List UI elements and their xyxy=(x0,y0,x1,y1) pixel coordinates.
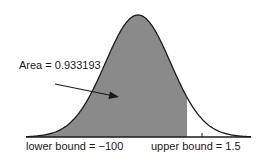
lower-bound-label: lower bound = −100 xyxy=(26,141,123,152)
shaded-area-region xyxy=(26,15,187,137)
area-annotation: Area = 0.933193 xyxy=(19,60,101,71)
upper-bound-label: upper bound = 1.5 xyxy=(151,141,241,152)
